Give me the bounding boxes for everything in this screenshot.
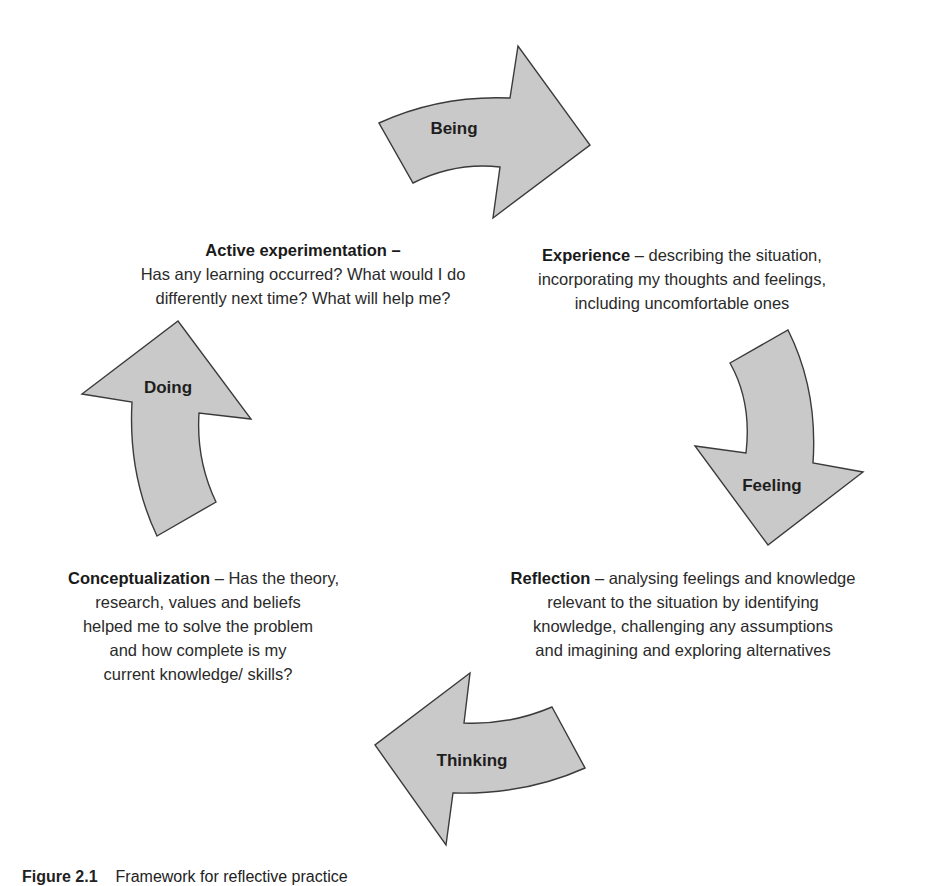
reflection-text: Reflection – analysing feelings and know… bbox=[488, 566, 878, 662]
experience-line: incorporating my thoughts and feelings, bbox=[512, 267, 852, 291]
experience-line: including uncomfortable ones bbox=[512, 291, 852, 315]
being-arrow: Being bbox=[379, 46, 590, 218]
conceptualization-line: – Has the theory, bbox=[210, 569, 339, 587]
doing-arrow-label: Doing bbox=[144, 378, 192, 397]
figure-caption-text: Framework for reflective practice bbox=[116, 868, 348, 885]
figure-number: Figure 2.1 bbox=[22, 868, 98, 885]
experience-heading: Experience bbox=[542, 246, 630, 264]
conceptualization-line: helped me to solve the problem bbox=[68, 614, 328, 638]
feeling-arrow-label: Feeling bbox=[742, 476, 802, 495]
feeling-arrow: Feeling bbox=[695, 330, 863, 545]
active-experimentation-line: differently next time? What will help me… bbox=[118, 286, 488, 310]
conceptualization-text: Conceptualization – Has the theory, rese… bbox=[68, 566, 328, 686]
reflection-line: – analysing feelings and knowledge bbox=[590, 569, 855, 587]
doing-arrow: Doing bbox=[82, 321, 251, 536]
conceptualization-line: current knowledge/ skills? bbox=[68, 662, 328, 686]
reflection-line: relevant to the situation by identifying bbox=[488, 590, 878, 614]
reflection-heading: Reflection bbox=[511, 569, 591, 587]
reflection-line: knowledge, challenging any assumptions bbox=[488, 614, 878, 638]
experience-line: – describing the situation, bbox=[630, 246, 822, 264]
conceptualization-line: and how complete is my bbox=[68, 638, 328, 662]
conceptualization-heading: Conceptualization bbox=[68, 569, 210, 587]
reflection-line: and imagining and exploring alternatives bbox=[488, 638, 878, 662]
thinking-arrow: Thinking bbox=[375, 673, 585, 845]
figure-caption: Figure 2.1Framework for reflective pract… bbox=[22, 868, 348, 886]
thinking-arrow-label: Thinking bbox=[437, 751, 508, 770]
experience-text: Experience – describing the situation, i… bbox=[512, 243, 852, 315]
being-arrow-label: Being bbox=[430, 119, 477, 138]
active-experimentation-heading: Active experimentation – bbox=[118, 238, 488, 262]
active-experimentation-line: Has any learning occurred? What would I … bbox=[118, 262, 488, 286]
active-experimentation-text: Active experimentation – Has any learnin… bbox=[118, 238, 488, 310]
conceptualization-line: research, values and beliefs bbox=[68, 590, 328, 614]
